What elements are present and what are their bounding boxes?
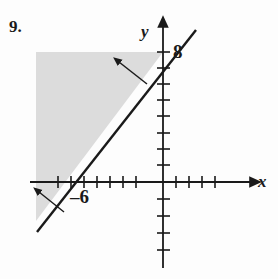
graph-figure: 9. y x 8 –6 xyxy=(0,0,278,279)
x-intercept-label: –6 xyxy=(70,187,89,206)
y-axis-label: y xyxy=(141,23,149,40)
coordinate-plane-graphic xyxy=(0,0,278,279)
shaded-solution-region xyxy=(36,52,163,221)
y-intercept-label: 8 xyxy=(173,42,183,61)
x-axis-label: x xyxy=(258,173,267,190)
problem-number: 9. xyxy=(9,18,22,35)
